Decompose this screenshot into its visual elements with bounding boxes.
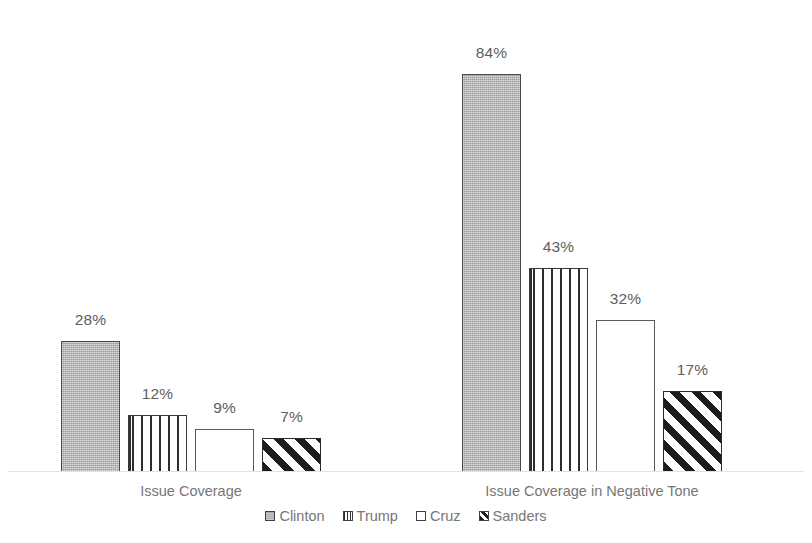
bar-value-trump-negative-tone: 43% — [519, 238, 598, 256]
bar-sanders-negative-tone — [663, 391, 722, 472]
legend-swatch-clinton-icon — [265, 511, 275, 521]
legend-label-trump: Trump — [357, 508, 398, 524]
bar-clinton-negative-tone — [462, 74, 521, 472]
bar-cruz-issue-coverage — [195, 429, 254, 472]
chart-legend: Clinton Trump Cruz Sanders — [0, 508, 812, 524]
bar-value-clinton-issue-coverage: 28% — [51, 311, 130, 329]
legend-item-clinton[interactable]: Clinton — [265, 508, 324, 524]
grouped-bar-chart: 28% 12% 9% 7% 84% 43% 32% 17% Issue Cove… — [0, 0, 812, 543]
bar-value-sanders-negative-tone: 17% — [653, 361, 732, 379]
legend-label-cruz: Cruz — [430, 508, 461, 524]
category-label-negative-tone: Issue Coverage in Negative Tone — [452, 483, 732, 499]
legend-label-sanders: Sanders — [493, 508, 547, 524]
bar-clinton-issue-coverage — [61, 341, 120, 472]
legend-item-cruz[interactable]: Cruz — [416, 508, 461, 524]
bar-value-clinton-negative-tone: 84% — [452, 44, 531, 62]
bar-value-cruz-negative-tone: 32% — [586, 290, 665, 308]
bar-cruz-negative-tone — [596, 320, 655, 472]
bar-value-sanders-issue-coverage: 7% — [252, 408, 331, 426]
category-axis-line — [8, 471, 804, 472]
legend-swatch-cruz-icon — [416, 511, 426, 521]
bar-sanders-issue-coverage — [262, 438, 321, 472]
plot-area: 28% 12% 9% 7% 84% 43% 32% 17% — [0, 0, 812, 472]
bar-trump-negative-tone — [529, 268, 588, 472]
bar-trump-issue-coverage — [128, 415, 187, 472]
legend-item-trump[interactable]: Trump — [343, 508, 398, 524]
category-label-issue-coverage: Issue Coverage — [81, 483, 301, 499]
legend-swatch-sanders-icon — [479, 511, 489, 521]
legend-label-clinton: Clinton — [279, 508, 324, 524]
legend-item-sanders[interactable]: Sanders — [479, 508, 547, 524]
legend-swatch-trump-icon — [343, 511, 353, 521]
